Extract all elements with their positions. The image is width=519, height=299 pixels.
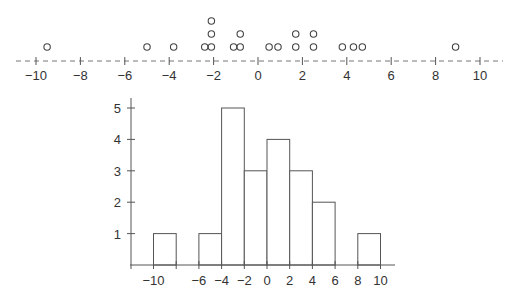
x-tick-label: 4 (309, 273, 316, 288)
x-tick-label: 2 (286, 273, 293, 288)
histogram-bar (358, 234, 381, 265)
figure: −10−8−6−4−20246810 −10−6−4−2024681012345 (0, 0, 519, 299)
histogram-bar (199, 234, 222, 265)
x-tick-label: −4 (214, 273, 229, 288)
y-tick-label: 5 (114, 101, 121, 116)
x-tick-label: −2 (237, 273, 252, 288)
histogram-bar (312, 202, 335, 265)
y-tick-label: 3 (114, 164, 121, 179)
y-tick-label: 1 (114, 227, 121, 242)
x-tick-label: 10 (373, 273, 387, 288)
x-tick-label: 6 (331, 273, 338, 288)
histogram-bar (154, 234, 177, 265)
x-tick-label: −10 (142, 273, 164, 288)
histogram: −10−6−4−2024681012345 (0, 0, 519, 299)
histogram-bar (244, 171, 267, 265)
histogram-bar (290, 171, 313, 265)
y-tick-label: 2 (114, 195, 121, 210)
histogram-bar (267, 139, 290, 265)
x-tick-label: −6 (191, 273, 206, 288)
y-tick-label: 4 (114, 132, 121, 147)
x-tick-label: 0 (263, 273, 270, 288)
x-tick-label: 8 (354, 273, 361, 288)
histogram-bar (222, 108, 245, 265)
